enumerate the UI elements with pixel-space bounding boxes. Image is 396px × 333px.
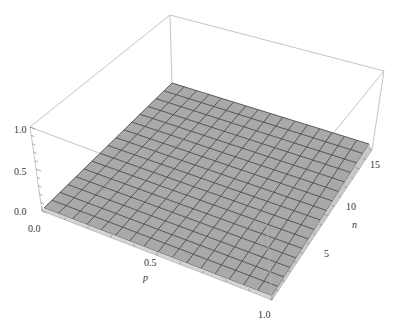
p-tick-0: 0.0	[28, 223, 41, 234]
surface-plot: 0.0 0.5 1.0 0.0 0.5 1.0 p 5 10 15 n	[0, 0, 396, 333]
p-tick-1: 0.5	[144, 257, 157, 268]
z-tick-0: 0.0	[14, 206, 27, 217]
p-tick-2: 1.0	[258, 309, 271, 320]
p-axis-label: p	[142, 272, 148, 283]
box-edge	[170, 15, 172, 84]
n-axis-label: n	[352, 219, 357, 230]
z-tick-mark	[36, 169, 41, 171]
z-tick-2: 1.0	[14, 124, 27, 135]
box-edge	[170, 15, 384, 71]
n-tick-1: 10	[346, 201, 356, 212]
n-tick-0: 5	[324, 248, 329, 259]
plot-canvas: 0.0 0.5 1.0 0.0 0.5 1.0 p 5 10 15 n	[0, 0, 396, 333]
z-tick-mark	[30, 127, 35, 129]
n-tick-2: 15	[370, 159, 380, 170]
z-tick-1: 0.5	[14, 166, 27, 177]
box-edge	[372, 71, 384, 150]
surface-mesh	[42, 83, 372, 300]
